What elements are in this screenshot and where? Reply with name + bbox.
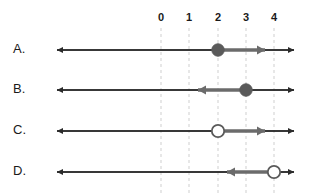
endpoint-open-circle-c — [212, 125, 224, 137]
row-label-a: A. — [13, 41, 25, 56]
tick-label-1: 1 — [186, 11, 192, 23]
endpoint-open-circle-d — [268, 166, 280, 178]
tick-label-2: 2 — [215, 11, 221, 23]
number-line-figure: 0 1 2 3 4 A. B. C. D. — [0, 0, 315, 196]
number-line-canvas: 0 1 2 3 4 A. B. C. D. — [0, 0, 315, 196]
row-c: C. — [13, 122, 294, 137]
tick-label-4: 4 — [271, 11, 278, 23]
tick-labels-group: 0 1 2 3 4 — [158, 11, 278, 23]
row-label-d: D. — [13, 163, 26, 178]
endpoint-closed-dot-a — [212, 44, 224, 56]
row-label-c: C. — [13, 122, 26, 137]
tick-label-3: 3 — [243, 11, 249, 23]
row-d: D. — [13, 163, 294, 178]
row-b: B. — [13, 81, 294, 96]
tick-label-0: 0 — [158, 11, 164, 23]
row-label-b: B. — [13, 81, 25, 96]
endpoint-closed-dot-b — [240, 84, 252, 96]
row-a: A. — [13, 41, 294, 56]
